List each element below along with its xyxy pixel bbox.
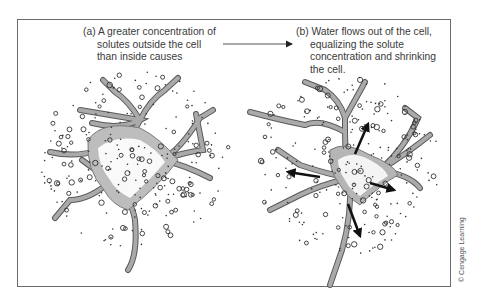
cell-b-illustration: [250, 82, 430, 285]
diagram-canvas: [0, 0, 478, 302]
